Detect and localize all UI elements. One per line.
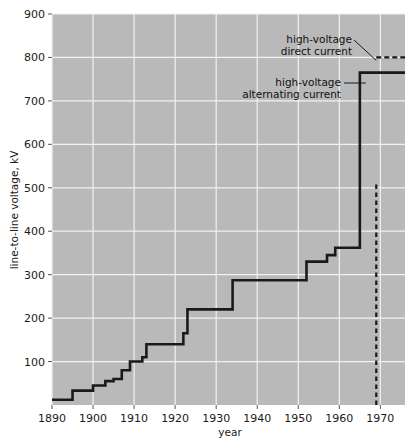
x-tick-label: 1920 <box>161 412 189 425</box>
hvdc-annotation-line2: direct current <box>281 45 352 57</box>
y-tick-label: 600 <box>24 138 45 151</box>
y-tick-label: 500 <box>24 182 45 195</box>
y-tick-label: 100 <box>24 356 45 369</box>
x-tick-label: 1940 <box>243 412 271 425</box>
y-axis-title: line-to-line voltage, kV <box>8 150 20 270</box>
y-tick-label: 200 <box>24 312 45 325</box>
x-tick-label: 1900 <box>79 412 107 425</box>
x-tick-label: 1930 <box>202 412 230 425</box>
y-tick-label: 300 <box>24 269 45 282</box>
chart-figure: 100200300400500600700800900 189019001910… <box>0 0 417 442</box>
hvac-annotation-line2: alternating current <box>242 88 341 100</box>
y-tick-label: 400 <box>24 225 45 238</box>
plot-background <box>52 14 405 405</box>
x-tick-label: 1960 <box>325 412 353 425</box>
voltage-history-line-chart: 100200300400500600700800900 189019001910… <box>0 0 417 442</box>
x-axis-title: year <box>218 426 242 438</box>
x-tick-label: 1970 <box>366 412 394 425</box>
hvac-annotation-line1: high-voltage <box>275 76 341 88</box>
y-tick-label: 800 <box>24 51 45 64</box>
y-axis-tick-labels: 100200300400500600700800900 <box>24 8 45 369</box>
y-tick-label: 900 <box>24 8 45 21</box>
hvdc-annotation-line1: high-voltage <box>286 33 352 45</box>
x-tick-label: 1890 <box>38 412 66 425</box>
x-axis-ticks <box>52 405 380 409</box>
x-axis-tick-labels: 189019001910192019301940195019601970 <box>38 412 394 425</box>
x-tick-label: 1910 <box>120 412 148 425</box>
x-tick-label: 1950 <box>284 412 312 425</box>
y-tick-label: 700 <box>24 95 45 108</box>
